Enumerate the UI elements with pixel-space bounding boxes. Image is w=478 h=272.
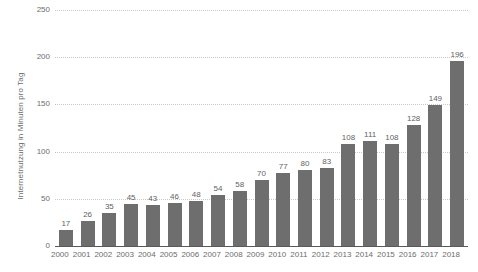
bar[interactable] bbox=[59, 230, 73, 246]
y-tick-label-50: 50 bbox=[10, 195, 50, 203]
bar-group[interactable]: 46 bbox=[168, 10, 182, 246]
bar[interactable] bbox=[363, 141, 377, 246]
bar[interactable] bbox=[428, 105, 442, 246]
bar[interactable] bbox=[233, 191, 247, 246]
y-tick-label-200: 200 bbox=[10, 53, 50, 61]
bar-group[interactable]: 196 bbox=[450, 10, 464, 246]
bar[interactable] bbox=[450, 61, 464, 246]
bar-group[interactable]: 128 bbox=[407, 10, 421, 246]
bar[interactable] bbox=[255, 180, 269, 246]
bar-group[interactable]: 35 bbox=[102, 10, 116, 246]
bar-group[interactable]: 17 bbox=[59, 10, 73, 246]
y-tick-label-0: 0 bbox=[10, 242, 50, 250]
x-axis-line bbox=[55, 246, 468, 247]
bar[interactable] bbox=[189, 201, 203, 246]
bar-value-label: 83 bbox=[314, 158, 340, 166]
bar-group[interactable]: 108 bbox=[341, 10, 355, 246]
bar-group[interactable]: 80 bbox=[298, 10, 312, 246]
bar[interactable] bbox=[276, 173, 290, 246]
bar-group[interactable]: 43 bbox=[146, 10, 160, 246]
bar-value-label: 128 bbox=[401, 115, 427, 123]
bar[interactable] bbox=[320, 168, 334, 246]
bar-group[interactable]: 108 bbox=[385, 10, 399, 246]
bar-group[interactable]: 77 bbox=[276, 10, 290, 246]
bar-value-label: 196 bbox=[444, 51, 470, 59]
bar[interactable] bbox=[407, 125, 421, 246]
bar-value-label: 26 bbox=[75, 211, 101, 219]
bar-group[interactable]: 45 bbox=[124, 10, 138, 246]
bar-value-label: 149 bbox=[422, 95, 448, 103]
bar-group[interactable]: 111 bbox=[363, 10, 377, 246]
bar[interactable] bbox=[146, 205, 160, 246]
x-tick-label: 2018 bbox=[438, 250, 464, 260]
bar-group[interactable]: 26 bbox=[81, 10, 95, 246]
bar-group[interactable]: 70 bbox=[255, 10, 269, 246]
bars-layer: 1726354543464854587077808310811110812814… bbox=[55, 10, 468, 246]
x-axis-tick-labels: 2000200120022003200420052006200720082009… bbox=[55, 250, 468, 266]
y-tick-label-100: 100 bbox=[10, 148, 50, 156]
bar-group[interactable]: 83 bbox=[320, 10, 334, 246]
bar-group[interactable]: 48 bbox=[189, 10, 203, 246]
bar-value-label: 108 bbox=[379, 134, 405, 142]
bar[interactable] bbox=[124, 204, 138, 246]
bar-group[interactable]: 58 bbox=[233, 10, 247, 246]
bar-value-label: 58 bbox=[227, 181, 253, 189]
bar-value-label: 35 bbox=[96, 203, 122, 211]
bar[interactable] bbox=[211, 195, 225, 246]
bar[interactable] bbox=[168, 203, 182, 246]
y-tick-label-250: 250 bbox=[10, 6, 50, 14]
y-tick-label-150: 150 bbox=[10, 100, 50, 108]
bar[interactable] bbox=[81, 221, 95, 246]
bar-group[interactable]: 149 bbox=[428, 10, 442, 246]
bar-group[interactable]: 54 bbox=[211, 10, 225, 246]
bar-value-label: 17 bbox=[53, 220, 79, 228]
bar[interactable] bbox=[385, 144, 399, 246]
bar-chart: Internetnutzung in Minuten pro Tag 05010… bbox=[0, 0, 478, 272]
y-axis-tick-labels: 050100150200250 bbox=[8, 10, 50, 246]
bar[interactable] bbox=[341, 144, 355, 246]
bar[interactable] bbox=[102, 213, 116, 246]
bar[interactable] bbox=[298, 170, 312, 246]
